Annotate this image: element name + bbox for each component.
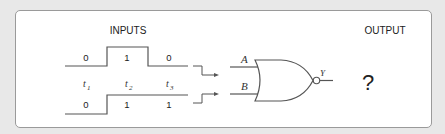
time-label-t2: t 2 [125, 78, 133, 92]
waveform-a-value-t1: 0 [83, 52, 88, 63]
output-heading: OUTPUT [364, 25, 405, 36]
waveform-b-value-t2: 1 [124, 99, 129, 110]
output-value: ? [362, 70, 374, 95]
inversion-bubble-icon [313, 77, 319, 83]
time-label-t3: t 3 [166, 78, 174, 92]
time-label-t1: t 1 [83, 78, 91, 92]
svg-text:2: 2 [129, 84, 133, 92]
svg-text:t: t [166, 78, 169, 89]
svg-text:t: t [83, 78, 86, 89]
waveform-a-value-t3: 0 [166, 52, 171, 63]
inputs-heading: INPUTS [110, 25, 147, 36]
output-label: Y [320, 68, 326, 78]
svg-text:3: 3 [169, 84, 174, 92]
waveform-b-value-t1: 0 [83, 99, 88, 110]
waveform-b-value-t3: 1 [166, 99, 171, 110]
nor-gate-icon [255, 60, 313, 101]
input-b-label: B [241, 80, 248, 92]
waveform-b-arrow-icon [193, 92, 219, 103]
input-a-label: A [240, 53, 248, 65]
svg-text:t: t [125, 78, 128, 89]
svg-text:1: 1 [87, 84, 91, 92]
waveform-a-arrow-icon [193, 66, 219, 77]
waveform-a-value-t2: 1 [124, 52, 129, 63]
nor-gate-timing-diagram: INPUTS OUTPUT 0 1 0 t 1 t 2 t 3 0 1 1 A … [0, 0, 445, 134]
